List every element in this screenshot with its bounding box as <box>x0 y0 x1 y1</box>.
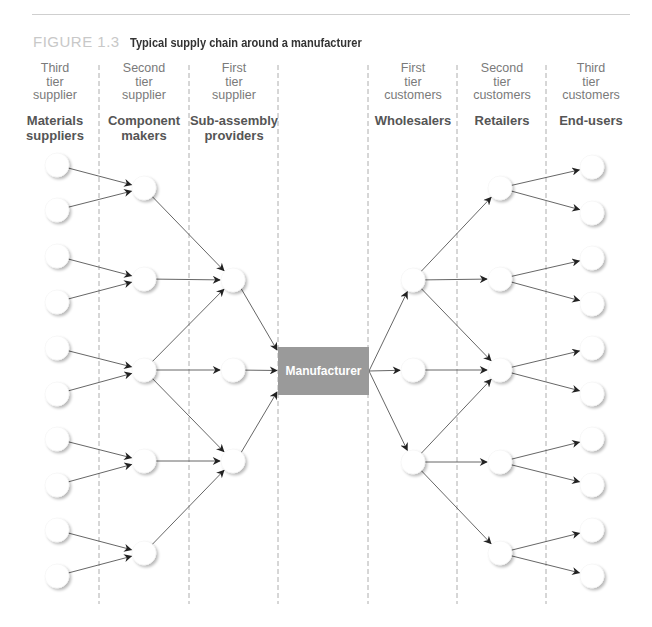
chain-node <box>132 176 156 200</box>
chain-node <box>132 541 156 565</box>
chain-node <box>221 358 245 382</box>
chain-node <box>488 450 512 474</box>
chain-node <box>580 155 604 179</box>
flow-arrow <box>420 197 491 272</box>
flow-arrow <box>152 470 225 545</box>
chain-node <box>580 246 604 270</box>
flow-arrow <box>511 261 580 277</box>
chain-node <box>401 450 425 474</box>
flow-arrow <box>511 351 580 368</box>
flow-arrow <box>510 282 579 301</box>
flow-arrow <box>511 556 580 573</box>
chain-node <box>45 336 69 360</box>
chain-node <box>580 201 604 225</box>
chain-node <box>580 564 604 588</box>
chain-node <box>401 268 425 292</box>
flow-arrow <box>511 170 580 186</box>
flow-arrow <box>152 289 224 362</box>
chain-node <box>580 336 604 360</box>
flow-arrow <box>67 465 131 483</box>
flow-arrow <box>68 191 132 207</box>
flow-arrow <box>241 288 277 350</box>
flow-arrow <box>511 442 580 459</box>
chain-node <box>132 358 156 382</box>
chain-node <box>580 473 604 497</box>
chain-node <box>45 564 69 588</box>
chain-node <box>132 449 156 473</box>
chain-node <box>221 268 245 292</box>
chain-node <box>580 292 604 316</box>
flow-arrow <box>424 279 487 280</box>
flow-arrow <box>155 279 220 280</box>
flow-arrow <box>369 292 407 371</box>
chain-node <box>45 198 69 222</box>
supply-chain-diagram <box>0 0 652 627</box>
flow-arrow <box>511 533 580 550</box>
chain-node <box>132 267 156 291</box>
chain-node <box>45 382 69 406</box>
manufacturer-label: Manufacturer <box>278 347 369 395</box>
flow-arrow <box>67 374 131 392</box>
flow-arrow <box>511 373 580 391</box>
flow-arrow <box>152 378 224 452</box>
chain-node <box>45 244 69 268</box>
flow-arrow <box>369 370 400 371</box>
flow-arrow <box>68 442 132 458</box>
flow-arrow <box>421 470 492 544</box>
chain-node <box>45 518 69 542</box>
chain-node <box>45 427 69 451</box>
chain-node <box>580 382 604 406</box>
flow-arrow <box>369 371 407 450</box>
flow-arrow <box>421 288 492 361</box>
chain-node <box>401 358 425 382</box>
chain-node <box>488 267 512 291</box>
chain-node <box>580 427 604 451</box>
chain-node <box>488 541 512 565</box>
chain-node <box>45 473 69 497</box>
chain-node <box>45 153 69 177</box>
flow-arrow <box>511 465 580 482</box>
chain-node <box>488 176 512 200</box>
chain-node <box>221 449 245 473</box>
chain-node <box>580 518 604 542</box>
flow-arrow <box>420 379 491 454</box>
flow-arrow <box>241 392 277 453</box>
chain-node <box>488 358 512 382</box>
flow-arrow <box>152 196 225 271</box>
chain-node <box>45 290 69 314</box>
flow-arrow <box>510 191 579 210</box>
flow-arrow <box>68 351 132 367</box>
